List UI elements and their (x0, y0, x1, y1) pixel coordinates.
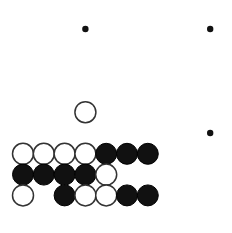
white-stone (13, 185, 34, 206)
stones (13, 102, 159, 206)
white-stone (33, 143, 54, 164)
black-stone (117, 185, 138, 206)
white-stone (96, 185, 117, 206)
black-stone (54, 185, 75, 206)
star-points (82, 26, 213, 136)
white-stone (96, 164, 117, 185)
white-stone (75, 102, 96, 123)
black-stone (54, 164, 75, 185)
black-stone (13, 164, 34, 185)
go-board-diagram (0, 0, 232, 233)
black-stone (33, 164, 54, 185)
go-board-canvas (0, 0, 232, 233)
star-point-icon (207, 26, 213, 32)
black-stone (96, 143, 117, 164)
star-point-icon (207, 130, 213, 136)
black-stone (75, 164, 96, 185)
star-point-icon (82, 26, 88, 32)
white-stone (75, 185, 96, 206)
white-stone (13, 143, 34, 164)
white-stone (75, 143, 96, 164)
black-stone (117, 143, 138, 164)
black-stone (137, 185, 158, 206)
white-stone (54, 143, 75, 164)
black-stone (137, 143, 158, 164)
